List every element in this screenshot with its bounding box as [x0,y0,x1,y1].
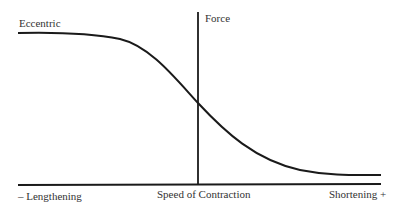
diagram-canvas [0,0,396,213]
speed-of-contraction-label: Speed of Contraction [157,188,250,200]
force-velocity-curve [18,33,381,175]
lengthening-label: – Lengthening [18,190,82,202]
force-axis-label: Force [205,12,230,24]
eccentric-label: Eccentric [19,17,61,29]
shortening-label: Shortening + [329,188,386,200]
force-velocity-diagram: Eccentric Force – Lengthening Speed of C… [0,0,396,213]
x-axis-line [18,184,381,185]
